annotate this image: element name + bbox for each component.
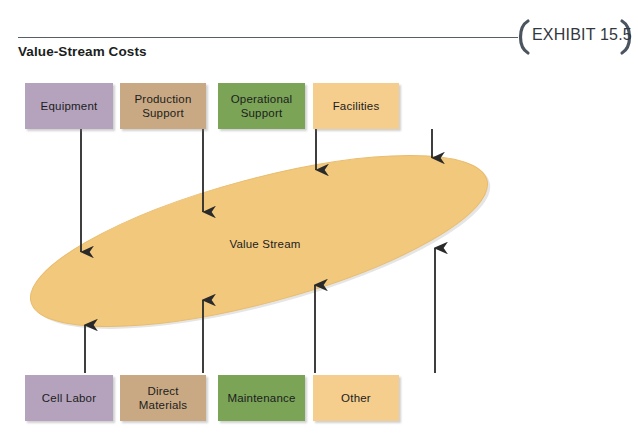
- bottom-cost-box-label: Other: [341, 391, 371, 405]
- bottom-cost-box-3[interactable]: Other: [313, 375, 399, 421]
- bottom-cost-box-1[interactable]: DirectMaterials: [120, 375, 206, 421]
- header-divider: [18, 37, 518, 38]
- top-cost-box-label: ProductionSupport: [135, 92, 192, 121]
- bottom-cost-box-label: Cell Labor: [42, 391, 96, 405]
- bottom-cost-box-2[interactable]: Maintenance: [218, 375, 305, 421]
- top-cost-box-label: OperationalSupport: [231, 92, 293, 121]
- top-cost-box-label: Equipment: [41, 99, 98, 113]
- top-cost-box-label: Facilities: [333, 99, 380, 113]
- page-title: Value-Stream Costs: [18, 44, 147, 59]
- exhibit-badge: EXHIBIT 15.5: [510, 18, 636, 56]
- value-stream-label: Value Stream: [180, 238, 350, 250]
- bottom-cost-box-label: Maintenance: [227, 391, 295, 405]
- top-cost-box-0[interactable]: Equipment: [25, 83, 113, 129]
- exhibit-figure: EXHIBIT 15.5 Value-Stream Costs Value St…: [0, 0, 638, 433]
- bottom-cost-box-label: DirectMaterials: [139, 384, 187, 413]
- exhibit-label: EXHIBIT 15.5: [532, 26, 632, 44]
- top-cost-box-1[interactable]: ProductionSupport: [120, 83, 206, 129]
- top-cost-box-3[interactable]: Facilities: [313, 83, 399, 129]
- bottom-cost-box-0[interactable]: Cell Labor: [25, 375, 113, 421]
- top-cost-box-2[interactable]: OperationalSupport: [218, 83, 305, 129]
